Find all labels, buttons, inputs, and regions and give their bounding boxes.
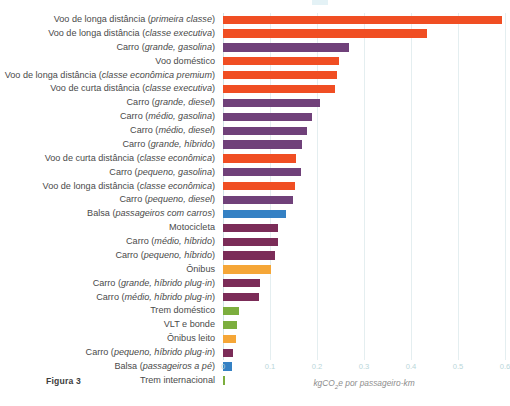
bar-row (223, 55, 505, 69)
bar-row (223, 69, 505, 83)
bar-row (223, 193, 505, 207)
bar-row (223, 82, 505, 96)
category-label: Voo de longa distância (primeira classe) (0, 13, 218, 27)
bar[interactable] (223, 16, 502, 24)
gridline-0.6 (505, 13, 506, 360)
category-label: Carro (médio, diesel) (0, 124, 218, 138)
bar[interactable] (223, 307, 239, 315)
category-label: Voo doméstico (0, 55, 218, 69)
x-tick-label: 0.1 (265, 362, 276, 371)
category-label: Carro (grande, híbrido) (0, 138, 218, 152)
bar-row (223, 166, 505, 180)
x-tick-label: 0.4 (406, 362, 417, 371)
category-label: Balsa (passageiros a pé) (0, 360, 218, 374)
bar-row (223, 110, 505, 124)
bar[interactable] (223, 196, 293, 204)
bar[interactable] (223, 224, 278, 232)
category-label-column: Voo de longa distância (primeira classe)… (0, 13, 218, 360)
bar[interactable] (223, 210, 286, 218)
bar-row (223, 277, 505, 291)
category-label: Motocicleta (0, 221, 218, 235)
category-label: Trem internacional (0, 374, 218, 388)
bar-row (223, 318, 505, 332)
bar-row (223, 27, 505, 41)
bar[interactable] (223, 251, 275, 259)
category-label: Balsa (passageiros com carros) (0, 207, 218, 221)
x-axis-title-rest: e por passageiro-km (338, 378, 414, 388)
bar[interactable] (223, 279, 260, 287)
bar-row (223, 13, 505, 27)
bar[interactable] (223, 154, 296, 162)
bar-row (223, 207, 505, 221)
x-tick-label: 0.5 (453, 362, 464, 371)
bar-rows (223, 13, 505, 360)
bar-row (223, 304, 505, 318)
category-label: Voo de curta distância (classe executiva… (0, 82, 218, 96)
category-label: Carro (grande, híbrido plug-in) (0, 277, 218, 291)
bar[interactable] (223, 140, 302, 148)
bar[interactable] (223, 182, 295, 190)
x-axis-title: kgCO2e por passageiro-km (223, 378, 505, 390)
category-label: Ônibus leito (0, 332, 218, 346)
category-label: Voo de longa distância (classe econômica… (0, 180, 218, 194)
plot-area (223, 13, 505, 360)
bar[interactable] (223, 349, 233, 357)
bar-row (223, 346, 505, 360)
category-label: Carro (pequeno, híbrido plug-in) (0, 346, 218, 360)
bar[interactable] (223, 57, 339, 65)
bar[interactable] (223, 29, 427, 37)
top-edge-artifact (312, 0, 328, 5)
bar-row (223, 124, 505, 138)
bar-row (223, 263, 505, 277)
category-label: Carro (médio, híbrido plug-in) (0, 291, 218, 305)
bar-row (223, 235, 505, 249)
bar[interactable] (223, 43, 349, 51)
category-label: Ônibus (0, 263, 218, 277)
bar[interactable] (223, 113, 312, 121)
bar[interactable] (223, 85, 335, 93)
figure-caption: Figura 3 (46, 376, 81, 386)
bar-row (223, 180, 505, 194)
bar[interactable] (223, 127, 307, 135)
category-label: Carro (médio, gasolina) (0, 110, 218, 124)
category-label: Voo de longa distância (classe executiva… (0, 27, 218, 41)
bar-row (223, 221, 505, 235)
bar-row (223, 138, 505, 152)
category-label: Carro (pequeno, gasolina) (0, 166, 218, 180)
x-tick-label: 0.2 (312, 362, 323, 371)
bar-row (223, 96, 505, 110)
bar[interactable] (223, 321, 237, 329)
category-label: Trem doméstico (0, 304, 218, 318)
bar-row (223, 332, 505, 346)
category-label: VLT e bonde (0, 318, 218, 332)
category-label: Carro (pequeno, híbrido) (0, 249, 218, 263)
bar[interactable] (223, 71, 337, 79)
bar[interactable] (223, 335, 236, 343)
x-axis-ticks: 00.10.20.30.40.50.6 (223, 362, 505, 376)
category-label: Carro (pequeno, diesel) (0, 193, 218, 207)
x-tick-label: 0.3 (359, 362, 370, 371)
x-axis-title-main: kgCO (313, 378, 334, 388)
bar-row (223, 152, 505, 166)
bar-row (223, 249, 505, 263)
bar-row (223, 291, 505, 305)
bar[interactable] (223, 265, 271, 273)
category-label: Voo de longa distância (classe econômica… (0, 69, 218, 83)
bar-row (223, 41, 505, 55)
x-tick-label: 0 (221, 362, 225, 371)
bar[interactable] (223, 99, 320, 107)
x-tick-label: 0.6 (500, 362, 510, 371)
bar[interactable] (223, 168, 301, 176)
category-label: Voo de curta distância (classe econômica… (0, 152, 218, 166)
category-label: Carro (grande, gasolina) (0, 41, 218, 55)
bar[interactable] (223, 238, 278, 246)
bar[interactable] (223, 293, 259, 301)
category-label: Carro (médio, híbrido) (0, 235, 218, 249)
category-label: Carro (grande, diesel) (0, 96, 218, 110)
